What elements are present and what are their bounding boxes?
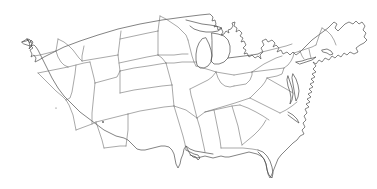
us-map-svg [0,0,377,189]
ink-speck-secondary-icon [55,107,56,108]
us-outline-map-figure [0,0,377,189]
ink-speck-icon [102,121,104,123]
